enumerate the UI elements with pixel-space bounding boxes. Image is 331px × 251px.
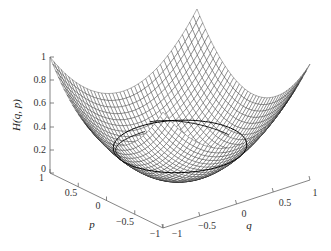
q-tick-label: 0.5: [279, 197, 292, 208]
plot-canvas: 1 0.8 0.6 0.4 0.2 0 1 0.5 0 −0.5 −1 −1 −…: [0, 0, 331, 251]
q-tick-label: −0.5: [198, 220, 216, 231]
z-tick-label: 0.8: [34, 74, 47, 85]
p-tick-label: 0: [96, 200, 101, 211]
q-tick-label: 0: [242, 208, 247, 219]
tick-mark: [309, 176, 310, 180]
surface-mesh: [50, 9, 310, 182]
p-tick-label: −0.5: [116, 216, 134, 227]
z-tick-label: 0.2: [34, 144, 47, 155]
tick-mark: [272, 188, 273, 192]
p-tick-label: −1: [150, 228, 161, 239]
p-tick-label: 1: [39, 172, 44, 183]
p-axis-label: p: [88, 218, 95, 230]
q-tick-label: −1: [172, 228, 183, 239]
tick-mark: [236, 200, 237, 204]
z-tick-label: 0.4: [34, 121, 47, 132]
q-axis-label: q: [246, 219, 252, 231]
q-tick-label: 1: [313, 187, 318, 198]
z-axis-label: H(q, p): [10, 99, 23, 132]
z-tick-label: 1: [41, 51, 46, 62]
tick-mark: [199, 212, 200, 216]
surface-plot: 1 0.8 0.6 0.4 0.2 0 1 0.5 0 −0.5 −1 −1 −…: [0, 0, 331, 251]
p-tick-label: 0.5: [65, 187, 78, 198]
z-tick-label: 0.6: [34, 97, 47, 108]
